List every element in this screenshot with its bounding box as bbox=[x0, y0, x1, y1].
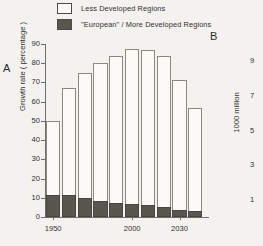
x-axis-line bbox=[45, 217, 209, 218]
y-tick-mark bbox=[41, 102, 45, 103]
bar bbox=[78, 73, 92, 217]
bar-segment-more-developed bbox=[46, 195, 60, 217]
bar-segment-less-developed bbox=[188, 108, 202, 217]
bar-segment-less-developed bbox=[78, 73, 92, 217]
y-tick-mark bbox=[41, 159, 45, 160]
bar-segment-more-developed bbox=[78, 198, 92, 217]
x-tick-mark bbox=[132, 217, 133, 220]
y2-tick-label: 5 bbox=[250, 126, 254, 135]
y2-tick-label: 3 bbox=[250, 160, 254, 169]
x-tick-label: 2000 bbox=[112, 224, 152, 233]
x-tick-label: 1950 bbox=[33, 224, 73, 233]
x-tick-mark bbox=[53, 217, 54, 220]
bar bbox=[172, 80, 186, 217]
legend-label-less-developed: Less Developed Regions bbox=[81, 4, 165, 13]
y-tick-label: 90 bbox=[14, 39, 40, 48]
bar bbox=[62, 88, 76, 217]
bar bbox=[125, 49, 139, 217]
bar-segment-less-developed bbox=[172, 80, 186, 217]
x-tick-mark bbox=[180, 217, 181, 220]
bar-series-group bbox=[46, 44, 204, 217]
legend-swatch-open-icon bbox=[57, 3, 72, 14]
y-tick-label: 0 bbox=[14, 212, 40, 221]
legend-swatch-filled-icon bbox=[57, 19, 72, 30]
bar bbox=[46, 121, 60, 217]
chart-legend: Less Developed Regions "European" / More… bbox=[57, 2, 211, 34]
y-tick-label: 40 bbox=[14, 135, 40, 144]
y2-axis-tick-labels: 13579 bbox=[204, 44, 260, 218]
bar-segment-less-developed bbox=[109, 56, 123, 217]
y-tick-label: 50 bbox=[14, 116, 40, 125]
bar-segment-less-developed bbox=[157, 56, 171, 217]
bar-segment-less-developed bbox=[93, 63, 107, 217]
bar-segment-more-developed bbox=[157, 207, 171, 217]
bar bbox=[188, 108, 202, 217]
legend-label-more-developed: "European" / More Developed Regions bbox=[81, 20, 211, 29]
bar-segment-less-developed bbox=[125, 49, 139, 217]
bar-segment-more-developed bbox=[141, 205, 155, 217]
y-tick-mark bbox=[41, 140, 45, 141]
bar-segment-more-developed bbox=[62, 195, 76, 217]
y-tick-label: 30 bbox=[14, 154, 40, 163]
panel-label-a: A bbox=[3, 62, 10, 74]
y-tick-mark bbox=[41, 82, 45, 83]
panel-label-b: B bbox=[210, 30, 217, 42]
bar-segment-more-developed bbox=[172, 210, 186, 217]
legend-item-less-developed: Less Developed Regions bbox=[57, 2, 211, 15]
bar-segment-more-developed bbox=[188, 211, 202, 217]
y-tick-label: 20 bbox=[14, 174, 40, 183]
y-tick-mark bbox=[41, 44, 45, 45]
bar-segment-more-developed bbox=[109, 203, 123, 217]
bar bbox=[141, 50, 155, 217]
y-tick-mark bbox=[41, 121, 45, 122]
y-tick-label: 60 bbox=[14, 97, 40, 106]
y-axis-tick-labels: 0102030405060708090 bbox=[14, 44, 40, 218]
y-tick-mark bbox=[41, 179, 45, 180]
y2-tick-label: 1 bbox=[250, 195, 254, 204]
y-tick-label: 80 bbox=[14, 58, 40, 67]
x-tick-label: 2030 bbox=[160, 224, 200, 233]
figure-canvas: Less Developed Regions "European" / More… bbox=[0, 0, 263, 246]
bar bbox=[157, 56, 171, 217]
y2-tick-label: 9 bbox=[250, 56, 254, 65]
y-tick-mark bbox=[41, 198, 45, 199]
bar bbox=[93, 63, 107, 217]
y-tick-label: 10 bbox=[14, 193, 40, 202]
bar-segment-more-developed bbox=[125, 204, 139, 217]
y-tick-label: 70 bbox=[14, 77, 40, 86]
bar-segment-less-developed bbox=[141, 50, 155, 217]
plot-area: 195020002030 bbox=[46, 44, 204, 217]
y2-tick-label: 7 bbox=[250, 91, 254, 100]
y-tick-mark bbox=[41, 217, 45, 218]
legend-item-more-developed: "European" / More Developed Regions bbox=[57, 18, 211, 31]
bar-segment-more-developed bbox=[93, 201, 107, 217]
y-tick-mark bbox=[41, 63, 45, 64]
bar bbox=[109, 56, 123, 217]
